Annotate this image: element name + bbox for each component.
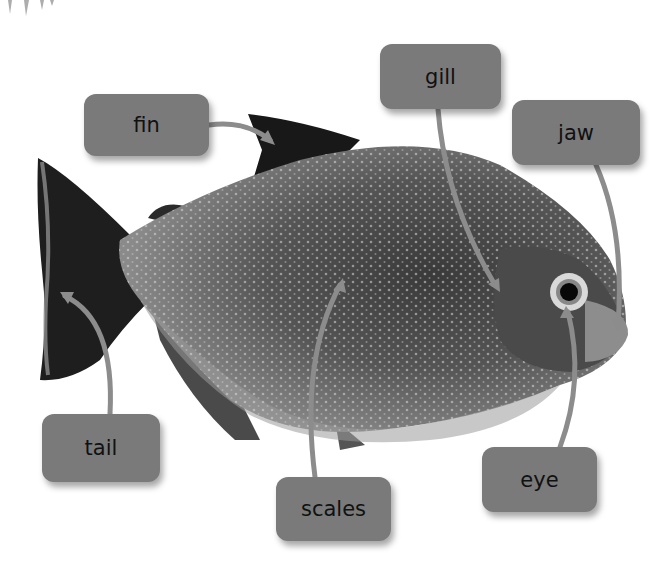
label-eye: eye [482,447,597,512]
label-scales-text: scales [301,497,366,521]
label-jaw: jaw [512,100,640,165]
corner-decoration [8,0,54,16]
label-fin-text: fin [133,113,160,137]
label-eye-text: eye [520,468,558,492]
label-jaw-text: jaw [558,121,594,145]
label-gill: gill [380,44,501,109]
label-fin: fin [84,94,209,156]
label-scales: scales [276,477,391,541]
label-tail-text: tail [85,436,118,460]
label-gill-text: gill [425,65,456,89]
label-tail: tail [42,414,160,482]
fish-eye [550,273,588,311]
fish-diagram: fin gill jaw tail scales eye [0,0,668,584]
